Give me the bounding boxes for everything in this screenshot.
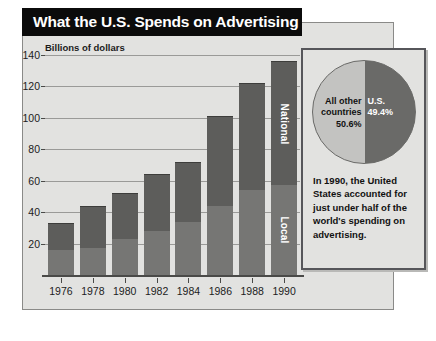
bar-segment-local-1984: [175, 222, 201, 275]
x-axis-tick-mark: [188, 278, 189, 283]
y-axis-tick-label: 100: [22, 112, 40, 124]
x-axis-tick-label-1990: 1990: [272, 285, 295, 297]
y-axis-tick-label: 40: [28, 206, 40, 218]
bar-group-1988: [239, 83, 265, 275]
bar-group-1982: [144, 174, 170, 275]
x-axis-tick-label-1980: 1980: [113, 285, 136, 297]
bar-segment-national-1990: National: [271, 61, 297, 185]
x-axis-tick-label-1982: 1982: [145, 285, 168, 297]
x-axis-tick-label-1976: 1976: [49, 285, 72, 297]
x-axis-tick-label-1988: 1988: [241, 285, 264, 297]
inset-pie-panel: All other countries 50.6% U.S. 49.4% In …: [301, 48, 426, 270]
x-axis-tick-mark: [125, 278, 126, 283]
pie-label-all-other-countries: All other countries 50.6%: [316, 96, 362, 130]
bar-segment-national-1984: [175, 162, 201, 222]
bar-group-1990: LocalNational: [271, 61, 297, 275]
bar-series-group: LocalNational: [45, 55, 300, 275]
bar-segment-local-1982: [144, 231, 170, 275]
bar-segment-local-1980: [112, 239, 138, 275]
bar-segment-local-1990: Local: [271, 185, 297, 275]
chart-title-banner: What the U.S. Spends on Advertising: [22, 8, 302, 36]
y-axis-tick-label: 60: [28, 175, 40, 187]
bar-segment-national-1982: [144, 174, 170, 231]
bar-segment-local-1988: [239, 190, 265, 275]
inset-caption-text: In 1990, the United States accounted for…: [313, 174, 416, 241]
bar-group-1984: [175, 162, 201, 275]
x-axis-tick-label-1984: 1984: [177, 285, 200, 297]
bar-segment-national-1986: [207, 116, 233, 206]
pie-label-other-line2: countries: [316, 107, 362, 118]
bar-segment-local-1976: [48, 250, 74, 275]
y-axis-caption: Billions of dollars: [45, 42, 125, 53]
bar-group-1980: [112, 193, 138, 275]
pie-label-other-line3: 50.6%: [316, 119, 362, 130]
bar-segment-local-1978: [80, 248, 106, 275]
y-axis-tick-label: 140: [22, 49, 40, 61]
x-axis-tick-mark: [252, 278, 253, 283]
y-axis-tick-label: 120: [22, 80, 40, 92]
page-title: What the U.S. Spends on Advertising: [33, 13, 298, 31]
x-axis-tick-mark: [220, 278, 221, 283]
bar-segment-national-1978: [80, 206, 106, 248]
y-axis-tick-label: 80: [28, 143, 40, 155]
y-axis-tick-label: 20: [28, 238, 40, 250]
bar-segment-national-1988: [239, 83, 265, 190]
pie-label-us-line1: U.S.: [368, 96, 394, 107]
x-axis-labels: 19761978198019821984198619881990: [45, 278, 300, 302]
bar-segment-national-1976: [48, 223, 74, 250]
bar-segment-national-1980: [112, 193, 138, 239]
pie-label-us: U.S. 49.4%: [368, 96, 394, 119]
x-axis-tick-mark: [284, 278, 285, 283]
x-axis-tick-mark: [61, 278, 62, 283]
bar-group-1978: [80, 206, 106, 275]
x-axis-tick-mark: [157, 278, 158, 283]
pie-chart: All other countries 50.6% U.S. 49.4%: [312, 60, 416, 164]
bar-group-1986: [207, 116, 233, 275]
pie-label-us-line2: 49.4%: [368, 107, 394, 118]
bar-segment-local-1986: [207, 206, 233, 275]
bar-label-national: National: [279, 103, 290, 144]
bar-group-1976: [48, 223, 74, 275]
x-axis-tick-mark: [93, 278, 94, 283]
x-axis-tick-label-1978: 1978: [81, 285, 104, 297]
x-axis-line: [42, 275, 304, 277]
pie-label-other-line1: All other: [316, 96, 362, 107]
x-axis-tick-label-1986: 1986: [209, 285, 232, 297]
bar-label-local: Local: [279, 217, 290, 244]
